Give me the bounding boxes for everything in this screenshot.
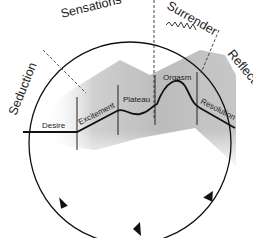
label-sensations: Sensations	[59, 0, 122, 21]
label-desire: Desire	[42, 121, 66, 130]
sexual-response-cycle-diagram: Sensations Seduction Surrender Reflectio…	[0, 0, 253, 238]
label-plateau: Plateau	[123, 95, 150, 104]
dashed-divider-seduction-sensations	[43, 50, 86, 93]
arrowhead-icon	[57, 197, 69, 210]
label-orgasm: Orgasm	[163, 73, 192, 82]
diagram-canvas: Sensations Seduction Surrender Reflectio…	[0, 0, 253, 238]
arrowhead-icon	[133, 222, 141, 236]
arrowhead-icon	[203, 189, 216, 202]
cycle-arrows	[57, 189, 216, 236]
label-surrender: Surrender	[165, 0, 220, 38]
